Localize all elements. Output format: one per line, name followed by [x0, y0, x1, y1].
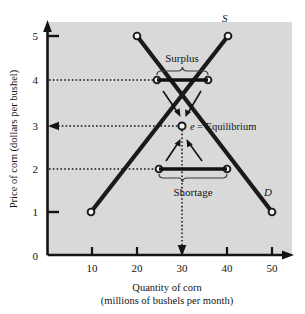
y-tick-label-4: 4 [33, 74, 39, 86]
x-tick-label-20: 20 [132, 262, 144, 274]
x-axis-tick-labels: 10 20 30 40 50 [87, 262, 279, 274]
y-tick-label-3: 3 [33, 120, 39, 132]
chart-canvas: 0 1 2 3 4 5 10 20 30 40 50 [0, 0, 305, 314]
x-tick-label-50: 50 [267, 262, 279, 274]
y-tick-label-2: 2 [33, 163, 39, 175]
x-axis-title: Quantity of corn [132, 282, 202, 293]
equilibrium-marker[interactable] [178, 122, 185, 129]
x-tick-label-30: 30 [177, 262, 189, 274]
figure-supply-demand: 0 1 2 3 4 5 10 20 30 40 50 [0, 0, 305, 314]
x-tick-label-10: 10 [87, 262, 99, 274]
supply-marker-q39-p5[interactable] [225, 33, 232, 40]
supply-curve-label: S [222, 12, 228, 24]
equilibrium-label: = Equilibrium [197, 121, 256, 132]
y-tick-label-0: 0 [33, 250, 39, 262]
supply-marker-q10-p1[interactable] [88, 209, 95, 216]
demand-marker-q50-p1[interactable] [269, 209, 276, 216]
demand-curve-label: D [263, 186, 272, 198]
equilibrium-symbol: e [190, 121, 195, 132]
x-tick-label-40: 40 [222, 262, 234, 274]
surplus-label: Surplus [165, 52, 199, 64]
y-tick-label-5: 5 [33, 30, 39, 42]
equilibrium-point[interactable]: e = Equilibrium [178, 121, 256, 132]
y-axis-title: Price of corn (dollars per bushel) [8, 69, 20, 208]
x-axis-subtitle: (millions of bushels per month) [101, 295, 234, 307]
demand-marker-q20-p5[interactable] [134, 33, 141, 40]
shortage-label: Shortage [173, 186, 212, 198]
y-tick-label-1: 1 [33, 206, 39, 218]
y-axis-tick-labels: 0 1 2 3 4 5 [33, 30, 39, 262]
